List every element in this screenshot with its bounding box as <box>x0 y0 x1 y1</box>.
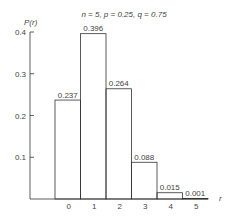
x-tick-label: 5 <box>194 202 199 211</box>
bar-value-label: 0.237 <box>58 91 79 100</box>
bar-value-label: 0.264 <box>109 79 130 88</box>
binomial-histogram: n = 5, p = 0.25, q = 0.75 P(r) 0.10.20.3… <box>0 0 235 220</box>
bar-r-1 <box>81 34 107 199</box>
bar-value-label: 0.396 <box>83 24 104 33</box>
x-axis-label: r <box>219 194 222 203</box>
bar-value-label: 0.001 <box>185 189 206 198</box>
bars: 0.23700.39610.26420.08830.01540.0015 <box>55 24 208 211</box>
y-tick-label: 0.4 <box>15 28 27 37</box>
bar-r-2 <box>106 89 132 199</box>
x-tick-label: 2 <box>118 202 123 211</box>
x-tick-label: 4 <box>169 202 174 211</box>
bar-r-4 <box>157 193 183 199</box>
bar-value-label: 0.015 <box>160 183 181 192</box>
y-tick-label: 0.3 <box>15 70 27 79</box>
bar-value-label: 0.088 <box>134 153 155 162</box>
y-tick-label: 0.1 <box>15 153 27 162</box>
bar-r-3 <box>132 162 158 199</box>
y-axis-label: P(r) <box>24 18 38 27</box>
bar-r-0 <box>55 100 81 199</box>
y-ticks: 0.10.20.30.4 <box>15 28 34 162</box>
x-tick-label: 0 <box>67 202 72 211</box>
x-tick-label: 3 <box>143 202 148 211</box>
x-tick-label: 1 <box>92 202 97 211</box>
y-tick-label: 0.2 <box>15 112 27 121</box>
chart-title: n = 5, p = 0.25, q = 0.75 <box>81 10 167 19</box>
